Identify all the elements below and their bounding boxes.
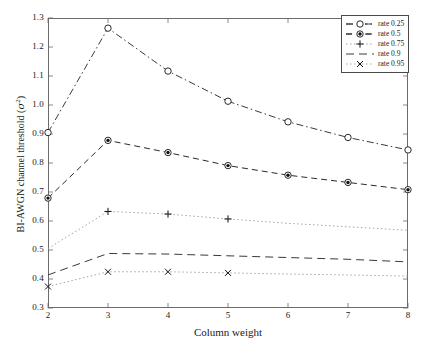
legend-label-rate-0-25: rate 0.25 <box>375 19 404 29</box>
legend: rate 0.25 rate 0.5 rate 0.75 rate 0.9 ra… <box>341 15 409 73</box>
chart-figure: 0.3 0.4 0.5 0.6 0.7 0.8 0.9 1.0 1.1 1.2 … <box>0 0 426 348</box>
legend-swatch-rate-0-75 <box>345 39 375 49</box>
legend-swatch-rate-0-9 <box>345 49 375 59</box>
legend-item-rate-0-25[interactable]: rate 0.25 <box>345 19 404 29</box>
legend-item-rate-0-9[interactable]: rate 0.9 <box>345 49 404 59</box>
legend-swatch-rate-0-95 <box>345 59 375 69</box>
legend-label-rate-0-9: rate 0.9 <box>375 49 401 59</box>
legend-label-rate-0-95: rate 0.95 <box>375 59 404 69</box>
legend-label-rate-0-75: rate 0.75 <box>375 39 404 49</box>
legend-item-rate-0-5[interactable]: rate 0.5 <box>345 29 404 39</box>
legend-swatch-rate-0-5 <box>345 29 375 39</box>
legend-item-rate-0-75[interactable]: rate 0.75 <box>345 39 404 49</box>
legend-label-rate-0-5: rate 0.5 <box>375 29 401 39</box>
legend-item-rate-0-95[interactable]: rate 0.95 <box>345 59 404 69</box>
legend-swatch-rate-0-25 <box>345 19 375 29</box>
